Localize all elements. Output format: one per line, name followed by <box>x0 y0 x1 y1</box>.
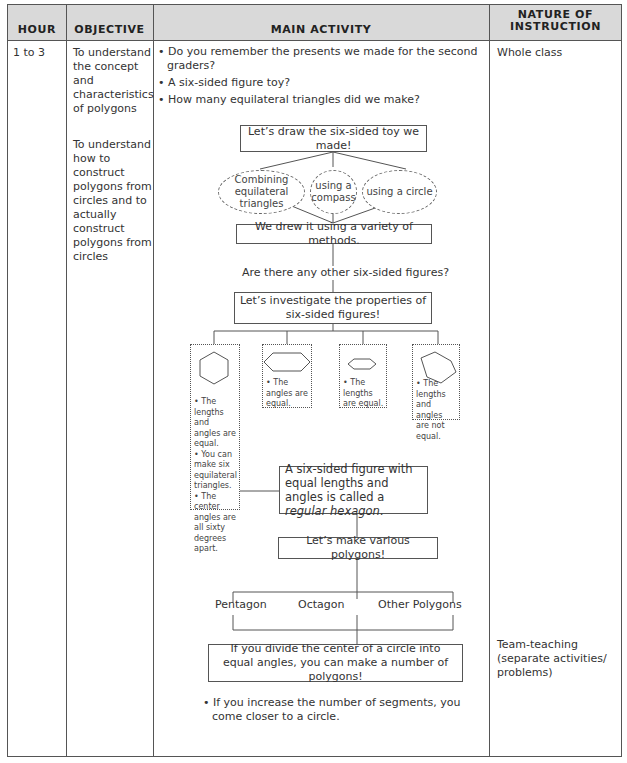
flow-box-drew-variety: We drew it using a variety of methods. <box>236 224 432 244</box>
figure-card-text: • The angles are equal. <box>266 378 309 410</box>
figure-card-text: • The lengths and angles are equal. • Yo… <box>194 397 237 555</box>
polygon-type-octagon: Octagon <box>298 598 344 612</box>
method-ellipse-circle: using a circle <box>362 170 437 214</box>
flow-box-regular-hexagon: A six-sided figure with equal lengths an… <box>279 466 428 514</box>
regular-hexagon-icon <box>191 349 239 389</box>
figure-card-flat-hexagon: • The lengths are equal. <box>339 344 387 408</box>
polygon-type-other: Other Polygons <box>378 598 462 612</box>
figure-card-wide-hexagon: • The angles are equal. <box>262 344 312 408</box>
flat-hexagon-icon <box>340 351 386 375</box>
flow-box-investigate: Let’s investigate the properties of six-… <box>234 292 432 324</box>
figure-card-irregular-hexagon: • The lengths and angles are not equal. <box>412 344 460 420</box>
method-ellipse-compass: using a compass <box>310 170 357 214</box>
polygon-type-pentagon: Pentagon <box>215 598 267 612</box>
figure-card-text: • The lengths are equal. <box>343 378 384 410</box>
flow-box-make-polygons: Let’s make various polygons! <box>278 537 438 559</box>
flow-box-divide-circle: If you divide the center of a circle int… <box>208 644 463 682</box>
other-figures-question: Are there any other six-sided figures? <box>241 266 450 280</box>
figure-card-text: • The lengths and angles are not equal. <box>416 379 457 442</box>
flow-box-draw-toy: Let’s draw the six-sided toy we made! <box>240 125 427 152</box>
method-ellipse-triangles: Combining equilateral triangles <box>218 170 305 214</box>
wide-hexagon-icon <box>263 349 311 377</box>
regular-hexagon-term: regular hexagon <box>285 504 380 518</box>
closing-bullet: • If you increase the number of segments… <box>203 696 468 727</box>
figure-card-regular-hexagon: • The lengths and angles are equal. • Yo… <box>190 344 240 510</box>
